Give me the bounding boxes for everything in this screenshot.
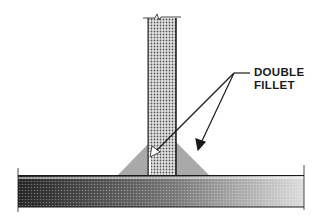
callout-label-fillet: FILLET	[254, 79, 295, 92]
callout-label-double: DOUBLE	[254, 66, 304, 79]
double-fillet-diagram	[0, 0, 321, 218]
vertical-plate	[143, 14, 181, 175]
